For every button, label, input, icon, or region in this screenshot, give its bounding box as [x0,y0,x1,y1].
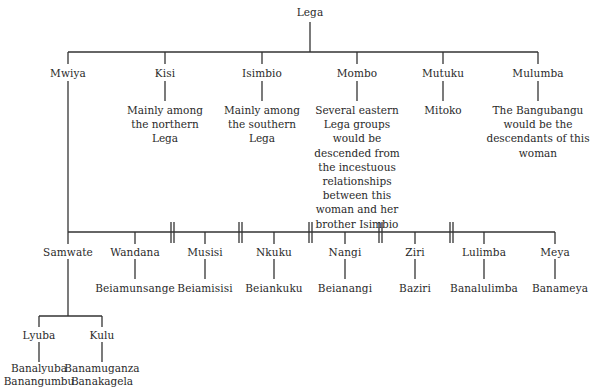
node-samwate: Samwate [43,246,93,259]
note-mulumba: The Bangubangu would be the descendants … [486,103,589,160]
desc-ziri: Baziri [399,282,431,295]
node-ziri: Ziri [405,246,424,259]
node-mutuku: Mutuku [422,67,464,80]
node-nkuku: Nkuku [256,246,292,259]
node-mwiya: Mwiya [50,67,86,80]
desc-meya: Banameya [532,282,588,295]
node-mulumba: Mulumba [512,67,563,80]
desc-nangi: Beianangi [318,282,372,295]
node-kulu: Kulu [90,329,115,342]
node-nangi: Nangi [329,246,362,259]
desc-musisi: Beiamisisi [177,282,232,295]
desc-kulu: Banamuganza Banakagela [64,362,139,387]
note-isimbio: Mainly among the southern Lega [224,103,300,146]
node-lyuba: Lyuba [23,329,56,342]
note-kisi: Mainly among the northern Lega [127,103,203,146]
desc-lulimba: Banalulimba [450,282,518,295]
desc-nkuku: Beiankuku [245,282,302,295]
node-wandana: Wandana [110,246,160,259]
note-mutuku: Mitoko [424,103,461,117]
node-lulimba: Lulimba [462,246,506,259]
node-isimbio: Isimbio [242,67,282,80]
note-mombo: Several eastern Lega groups would be des… [314,103,399,231]
node-meya: Meya [540,246,570,259]
node-lega: Lega [297,6,324,19]
node-musisi: Musisi [187,246,223,259]
node-mombo: Mombo [337,67,378,80]
desc-wandana: Beiamunsange [95,282,175,295]
node-kisi: Kisi [155,67,175,80]
